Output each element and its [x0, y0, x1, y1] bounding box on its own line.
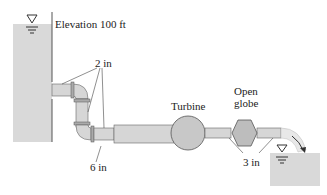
pipe-2in-label: 2 in: [95, 57, 112, 69]
pipe-6in-label: 6 in: [90, 161, 107, 173]
turbine-icon: [171, 116, 205, 150]
upper-reservoir: [13, 12, 52, 142]
pipe-3in-label: 3 in: [243, 156, 260, 168]
valve-label-line1: Open: [234, 85, 258, 97]
valve-label-line2: globe: [234, 97, 259, 109]
pipe-6in: [114, 125, 174, 143]
globe-valve-icon: [232, 120, 257, 146]
lower-reservoir: [270, 153, 320, 186]
pipe-2in: [52, 82, 114, 142]
elevation-label: Elevation 100 ft: [55, 18, 126, 30]
leader-lines: [62, 68, 273, 162]
pipe-system-diagram: Elevation 100 ft 2 in 6 in Turbine Open …: [0, 0, 327, 195]
turbine-label: Turbine: [171, 100, 206, 112]
